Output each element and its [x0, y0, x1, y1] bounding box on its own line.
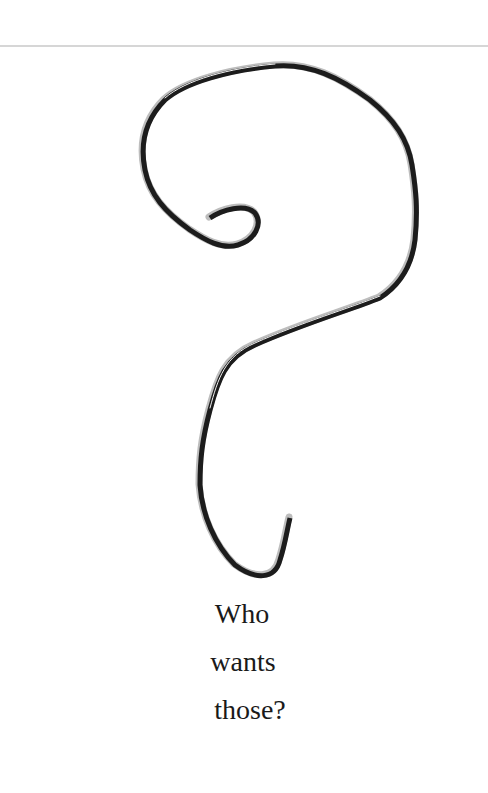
caption-line-1: Who: [0, 600, 486, 628]
caption-line-3: those?: [6, 696, 488, 724]
caption-line-2: wants: [0, 648, 487, 676]
